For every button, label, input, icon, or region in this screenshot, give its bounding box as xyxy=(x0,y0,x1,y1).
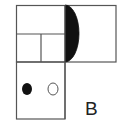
hollow-circle xyxy=(48,83,58,95)
puzzle-figure xyxy=(0,0,122,120)
figure-label: B xyxy=(85,99,98,118)
filled-circle xyxy=(22,83,32,95)
black-half-ellipse xyxy=(65,5,79,62)
